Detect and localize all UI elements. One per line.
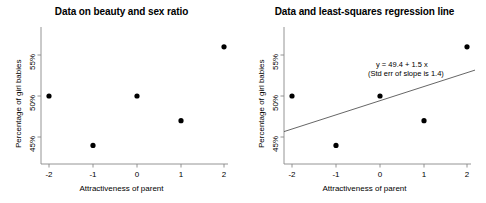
panel-left: Data on beauty and sex ratio 45% <box>0 0 243 203</box>
x-tick-label-neg1: -1 <box>326 170 346 179</box>
panel-left-y-axis-label: Percentage of girl babies <box>14 60 23 149</box>
x-tick-label-2: 2 <box>214 170 234 179</box>
x-tick-label-1: 1 <box>414 170 434 179</box>
data-point <box>178 118 183 123</box>
y-tick-label-50: 50% <box>271 95 280 111</box>
panel-right-x-axis-label: Attractiveness of parent <box>243 184 486 193</box>
panel-right: Data and least-squares regression line 4… <box>243 0 486 203</box>
data-point <box>421 118 426 123</box>
data-point <box>46 93 51 98</box>
y-tick-label-55: 55% <box>271 54 280 70</box>
regression-stderr-annotation: (Std err of slope is 1.4) <box>368 69 444 78</box>
y-tick-label-55: 55% <box>28 54 37 70</box>
data-point <box>377 93 382 98</box>
data-point <box>289 93 294 98</box>
x-tick-label-neg1: -1 <box>83 170 103 179</box>
panel-left-x-axis-label: Attractiveness of parent <box>0 184 243 193</box>
data-point <box>221 44 226 49</box>
data-point <box>90 143 95 148</box>
figure-two-panel-scatter: Data on beauty and sex ratio 45% <box>0 0 486 203</box>
regression-equation-annotation: y = 49.4 + 1.5 x <box>376 60 428 69</box>
data-point <box>333 143 338 148</box>
x-tick-label-0: 0 <box>127 170 147 179</box>
y-tick-label-50: 50% <box>28 95 37 111</box>
y-tick-label-45: 45% <box>271 136 280 152</box>
x-tick-label-0: 0 <box>370 170 390 179</box>
regression-line <box>284 70 475 132</box>
x-tick-label-2: 2 <box>457 170 477 179</box>
x-tick-label-neg2: -2 <box>39 170 59 179</box>
panel-right-y-axis-label: Percentage of girl babies <box>257 60 266 149</box>
y-tick-label-45: 45% <box>28 136 37 152</box>
data-point <box>134 93 139 98</box>
x-tick-label-1: 1 <box>171 170 191 179</box>
x-tick-label-neg2: -2 <box>282 170 302 179</box>
data-point <box>464 44 469 49</box>
